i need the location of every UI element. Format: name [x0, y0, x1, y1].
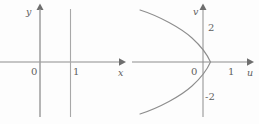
uv-plane-plot: v u 0 1 2 -2 — [129, 0, 259, 124]
xy-plane-plot: y x 0 1 — [0, 0, 130, 124]
x-axis-arrow-icon — [119, 58, 126, 66]
panel-uv-plane: v u 0 1 2 -2 — [129, 0, 259, 124]
origin-label-uv: 0 — [191, 66, 197, 77]
origin-label-xy: 0 — [31, 66, 37, 77]
xtick-label-1: 1 — [73, 66, 79, 77]
vtick-label-2: 2 — [208, 22, 214, 33]
v-axis-arrow-icon — [200, 4, 207, 11]
v-axis-label: v — [193, 6, 199, 17]
y-axis-label: y — [25, 6, 32, 17]
panel-xy-plane: y x 0 1 — [0, 0, 130, 124]
x-axis-label: x — [118, 67, 124, 78]
u-axis-arrow-icon — [247, 58, 254, 66]
u-axis-label: u — [247, 67, 253, 78]
utick-label-1: 1 — [228, 66, 234, 77]
vtick-label-minus2: -2 — [205, 91, 215, 102]
figure-pair-conformal-mapping: y x 0 1 v u 0 1 2 -2 — [0, 0, 259, 124]
